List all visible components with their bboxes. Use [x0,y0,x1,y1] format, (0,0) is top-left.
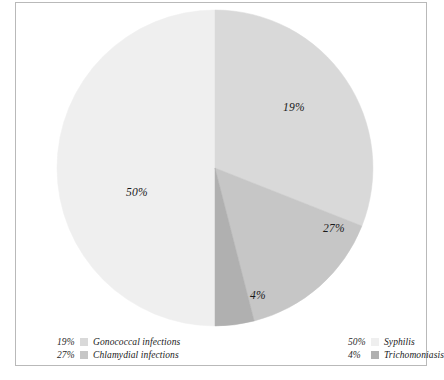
legend-item-syphilis[interactable]: 50% Syphilis [348,336,444,347]
pie-svg [55,8,375,328]
chart-frame: 19% 27% 4% 50% 19% Gonococcal infections… [15,2,427,366]
legend-item-chlamydial[interactable]: 27% Chlamydial infections [57,349,180,360]
legend-right-column: 50% Syphilis 4% Trichomoniasis [348,336,444,360]
slice-label-syphilis: 50% [126,186,148,198]
legend-label: Syphilis [384,337,415,347]
legend-label: Gonococcal infections [93,337,180,347]
legend-percent: 27% [57,350,79,360]
legend-swatch-chlamydial [80,351,88,359]
legend-swatch-gonococcal [80,338,88,346]
legend-item-gonococcal[interactable]: 19% Gonococcal infections [57,336,180,347]
legend-left-column: 19% Gonococcal infections 27% Chlamydial… [57,336,180,360]
slice-label-chlamydial: 27% [323,222,345,234]
pie-slice-syphilis[interactable] [57,10,215,326]
legend-percent: 50% [348,337,370,347]
slice-label-trichomoniasis: 4% [250,289,266,301]
pie-chart-figure: 19% 27% 4% 50% 19% Gonococcal infections… [0,0,444,380]
legend-percent: 19% [57,337,79,347]
legend-percent: 4% [348,350,370,360]
legend-label: Trichomoniasis [384,350,444,360]
legend-swatch-syphilis [371,338,379,346]
slice-label-gonococcal: 19% [283,101,305,113]
legend-swatch-trichomoniasis [371,351,379,359]
legend-label: Chlamydial infections [93,350,179,360]
legend-item-trichomoniasis[interactable]: 4% Trichomoniasis [348,349,444,360]
pie-chart-area: 19% 27% 4% 50% [55,8,375,328]
